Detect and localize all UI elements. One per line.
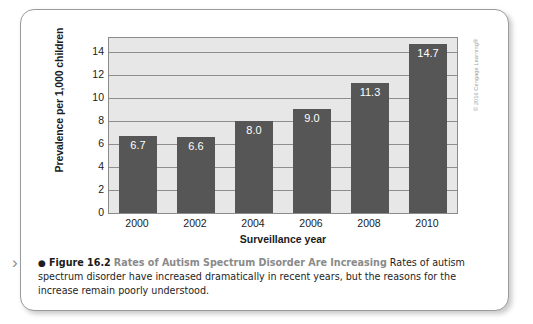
- x-tick-label: 2000: [108, 217, 166, 229]
- y-tick-label: 4: [78, 160, 104, 172]
- gridline: [109, 144, 457, 145]
- x-tick-label: 2002: [166, 217, 224, 229]
- bar-value-label: 9.0: [293, 112, 331, 124]
- y-axis-title: Prevalence per 1,000 children: [53, 15, 65, 185]
- caption-bullet-icon: ●: [38, 258, 46, 268]
- y-tick-label: 14: [78, 45, 104, 57]
- gridline: [109, 190, 457, 191]
- bar-value-label: 14.7: [409, 47, 447, 59]
- x-axis-title: Surveillance year: [108, 233, 458, 245]
- bar-value-label: 8.0: [235, 124, 273, 136]
- y-tick-label: 10: [78, 91, 104, 103]
- figure-card: › Prevalence per 1,000 children 02468101…: [20, 9, 509, 311]
- y-tick-label: 0: [78, 206, 104, 218]
- bar-2006[interactable]: 9.0: [293, 109, 331, 213]
- gridline: [109, 52, 457, 53]
- y-axis-ticks: 02468101214: [76, 37, 104, 214]
- x-axis-ticks: 200020022004200620082010: [108, 217, 458, 233]
- y-tick-label: 8: [78, 114, 104, 126]
- bar-2010[interactable]: 14.7: [409, 44, 447, 213]
- figure-title: Rates of Autism Spectrum Disorder Are In…: [114, 257, 387, 268]
- plot-area: 6.76.68.09.011.314.7: [108, 37, 458, 214]
- bar-2002[interactable]: 6.6: [177, 137, 215, 213]
- caption-chevron-icon: ›: [12, 253, 26, 273]
- copyright-notice: © 2016 Cengage Learning®: [473, 0, 479, 111]
- bar-2004[interactable]: 8.0: [235, 121, 273, 213]
- gridline: [109, 167, 457, 168]
- bar-2008[interactable]: 11.3: [351, 83, 389, 213]
- figure-number: Figure 16.2: [49, 257, 111, 268]
- x-tick-label: 2008: [340, 217, 398, 229]
- x-tick-label: 2004: [224, 217, 282, 229]
- figure-caption: ● Figure 16.2 Rates of Autism Spectrum D…: [38, 256, 494, 299]
- bar-value-label: 6.6: [177, 140, 215, 152]
- x-tick-label: 2006: [282, 217, 340, 229]
- bar-2000[interactable]: 6.7: [119, 136, 157, 213]
- gridline: [109, 98, 457, 99]
- y-tick-label: 12: [78, 68, 104, 80]
- gridline: [109, 121, 457, 122]
- y-tick-label: 6: [78, 137, 104, 149]
- gridline: [109, 75, 457, 76]
- bar-value-label: 6.7: [119, 139, 157, 151]
- bar-chart: Prevalence per 1,000 children 0246810121…: [21, 14, 510, 249]
- x-tick-label: 2010: [398, 217, 456, 229]
- y-tick-label: 2: [78, 183, 104, 195]
- bar-value-label: 11.3: [351, 86, 389, 98]
